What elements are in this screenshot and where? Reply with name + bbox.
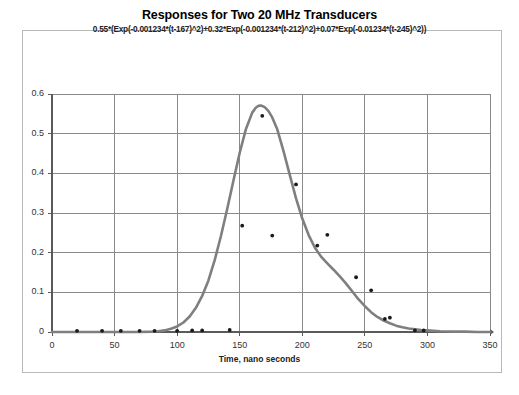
x-tick-label: 150: [220, 340, 260, 350]
chart-frame: [22, 30, 502, 373]
y-tick-label: 0.6: [18, 88, 44, 98]
x-tick-label: 350: [470, 340, 510, 350]
y-tick-label: 0.4: [18, 167, 44, 177]
y-tick-label: 0.1: [18, 286, 44, 296]
x-tick-label: 50: [95, 340, 135, 350]
x-tick-label: 300: [407, 340, 447, 350]
y-tick-label: 0: [18, 326, 44, 336]
y-tick-label: 0.5: [18, 128, 44, 138]
x-tick-label: 250: [345, 340, 385, 350]
y-tick-label: 0.3: [18, 207, 44, 217]
x-tick-label: 0: [32, 340, 72, 350]
x-tick-label: 100: [157, 340, 197, 350]
y-tick-label: 0.2: [18, 247, 44, 257]
x-tick-label: 200: [282, 340, 322, 350]
chart-title: Responses for Two 20 MHz Transducers: [0, 8, 519, 22]
x-axis-title: Time, nano seconds: [0, 354, 519, 364]
chart-subtitle: 0.55*(Exp(-0.001234*(t-167)^2)+0.32*Exp(…: [0, 24, 519, 34]
